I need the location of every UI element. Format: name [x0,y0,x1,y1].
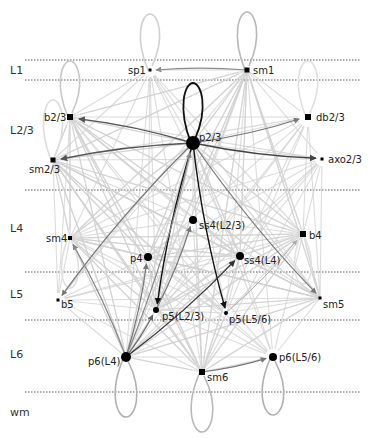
node-label: ss4(L4) [244,255,281,266]
node-p6L56[interactable]: p6(L5/6) [269,352,321,363]
node-sm23[interactable]: sm2/3 [29,158,60,176]
node-marker-circle[interactable] [224,311,228,315]
node-p5L56[interactable]: p5(L5/6) [224,311,271,325]
node-marker-square[interactable] [51,158,56,163]
self-loop-sm1 [237,12,256,70]
weak-edge [70,76,147,238]
node-marker-circle[interactable] [269,353,277,361]
node-db23[interactable]: db2/3 [305,112,345,123]
node-label: b5 [61,299,74,310]
weak-edge [278,298,320,351]
weak-edge [232,298,320,312]
self-loop-b23 [60,61,79,117]
node-marker-circle[interactable] [144,253,152,261]
self-loop-db23 [298,61,317,117]
node-marker-circle[interactable] [153,307,159,313]
node-marker-square[interactable] [68,236,72,240]
node-b5[interactable]: b5 [57,299,74,311]
node-axo23[interactable]: axo2/3 [321,154,362,165]
weak-edge [72,127,126,357]
node-sm5[interactable]: sm5 [319,297,345,311]
node-marker-square[interactable] [321,158,324,161]
node-label: db2/3 [316,112,345,123]
node-label: sm1 [253,65,274,76]
node-label: b4 [309,230,322,241]
node-sp1[interactable]: sp1 [128,65,152,76]
node-b4[interactable]: b4 [300,230,322,241]
weak-edge [247,70,300,111]
node-sm4[interactable]: sm4 [46,233,72,244]
layer-label: L6 [10,348,23,361]
self-loop-sm23 [43,100,62,160]
node-marker-circle[interactable] [121,352,131,362]
layer-labels: L1L2/3L4L5L6wm [10,64,34,419]
node-marker-circle[interactable] [189,216,197,224]
self-loop-sm4 [62,238,79,288]
node-marker-square[interactable] [149,69,152,72]
weak-edge [202,319,224,372]
node-label: p4 [130,253,143,264]
node-label: sp1 [128,65,146,76]
node-marker-square[interactable] [319,297,322,300]
node-marker-circle[interactable] [236,252,244,260]
node-label: sm4 [46,233,67,244]
layer-label: L4 [10,222,23,235]
node-label: p6(L4) [88,356,121,367]
node-marker-circle[interactable] [186,136,200,150]
layer-label: L2/3 [10,124,34,137]
node-marker-square[interactable] [305,114,311,120]
node-label: p5(L5/6) [229,314,271,325]
node-marker-square[interactable] [67,114,73,120]
weak-connections [53,70,322,372]
node-marker-square[interactable] [57,299,60,302]
node-label: p6(L5/6) [279,352,321,363]
self-loop-sp1 [140,14,159,70]
weak-edge [148,77,150,257]
node-label: p2/3 [199,132,221,143]
node-label: axo2/3 [328,154,362,165]
node-label: ss4(L2/3) [199,220,245,231]
node-marker-square[interactable] [245,68,250,73]
self-loop-p6L56 [262,357,284,415]
node-p6L4[interactable]: p6(L4) [88,352,131,367]
weak-edge [275,234,303,349]
node-label: b2/3 [44,112,66,123]
node-marker-square[interactable] [199,369,205,375]
layer-label: wm [10,406,30,419]
layer-label: L1 [10,64,23,77]
node-label: sm5 [323,299,344,310]
layer-label: L5 [10,288,23,301]
weak-edge [73,245,126,357]
node-marker-square[interactable] [300,231,306,237]
strong-connections [61,68,316,372]
node-label: sm2/3 [29,164,60,175]
node-label: p5(L2/3) [162,311,204,322]
node-label: sm6 [207,372,228,383]
node-sm6[interactable]: sm6 [199,369,228,383]
weak-edge [135,359,202,372]
weak-edge [156,299,313,310]
connectivity-diagram: L1L2/3L4L5L6wm sp1sm1b2/3db2/3p2/3sm2/3a… [0,0,370,438]
weak-edge [202,359,265,372]
